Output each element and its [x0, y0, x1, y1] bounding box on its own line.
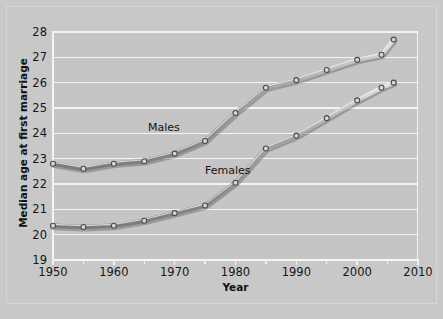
- data-point-marker: [172, 211, 177, 216]
- chart-figure: 19202122232425262728 1950196019701980199…: [0, 0, 443, 319]
- series-label-males: Males: [148, 121, 180, 134]
- series-line-highlight: [53, 81, 394, 225]
- data-point-marker: [111, 223, 116, 228]
- data-point-marker: [263, 146, 268, 151]
- data-point-marker: [142, 159, 147, 164]
- series-line-males: [53, 40, 394, 169]
- data-point-marker: [233, 111, 238, 116]
- data-point-marker: [294, 78, 299, 83]
- data-point-marker: [355, 98, 360, 103]
- data-point-marker: [324, 116, 329, 121]
- series-line-females: [53, 83, 394, 227]
- data-point-marker: [51, 223, 56, 228]
- series-line-shadow: [54, 41, 395, 170]
- data-point-marker: [391, 37, 396, 42]
- data-point-marker: [379, 85, 384, 90]
- data-point-marker: [81, 166, 86, 171]
- data-point-marker: [111, 161, 116, 166]
- data-point-marker: [142, 218, 147, 223]
- data-point-marker: [379, 52, 384, 57]
- series-label-females: Females: [205, 164, 251, 177]
- data-point-marker: [355, 57, 360, 62]
- data-point-marker: [233, 180, 238, 185]
- data-point-marker: [172, 151, 177, 156]
- data-point-marker: [263, 85, 268, 90]
- series-line-highlight: [53, 38, 394, 167]
- plot-wrapper: 19202122232425262728 1950196019701980199…: [0, 0, 443, 319]
- data-point-marker: [81, 225, 86, 230]
- data-point-marker: [51, 161, 56, 166]
- data-point-marker: [203, 203, 208, 208]
- data-point-marker: [324, 68, 329, 73]
- data-point-marker: [203, 138, 208, 143]
- data-point-marker: [294, 133, 299, 138]
- chart-plot-svg: [0, 0, 443, 319]
- data-point-marker: [391, 80, 396, 85]
